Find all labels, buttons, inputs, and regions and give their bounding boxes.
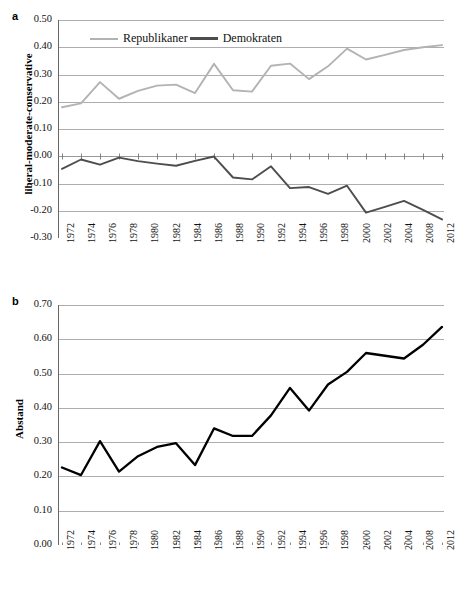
- x-tick-label: 1996: [319, 223, 329, 243]
- x-tick-label: 1976: [108, 530, 118, 550]
- x-tick-label: 1998: [340, 530, 350, 550]
- y-tick-label: 0.40: [0, 41, 52, 52]
- y-tick-label: -0.30: [0, 232, 52, 243]
- x-tick-label: 1986: [214, 530, 224, 550]
- x-tick-label: 1986: [214, 223, 224, 243]
- panel-a-svg: [58, 20, 444, 238]
- y-tick-label: 0.20: [0, 96, 52, 107]
- x-tick-label: 2000: [362, 223, 372, 243]
- x-tick-label: 1990: [256, 530, 266, 550]
- x-tick-label: 1974: [87, 530, 97, 550]
- y-tick-label: 0.40: [0, 402, 52, 413]
- x-tick-label: 1992: [277, 530, 287, 550]
- x-tick-label: 1996: [319, 530, 329, 550]
- x-tick-label: 2002: [383, 530, 393, 550]
- x-tick-label: 1974: [87, 223, 97, 243]
- x-tick-label: 1994: [298, 223, 308, 243]
- x-tick-label: 2008: [425, 530, 435, 550]
- x-tick-label: 2012: [446, 530, 456, 550]
- x-tick-label: 2004: [404, 223, 414, 243]
- panel-b: b Abstand 0.700.600.500.400.300.200.100.…: [0, 285, 453, 592]
- x-tick-label: 1980: [150, 530, 160, 550]
- y-tick-label: 0.30: [0, 69, 52, 80]
- x-tick-label: 2012: [446, 223, 456, 243]
- x-tick-label: 1990: [256, 223, 266, 243]
- x-tick-label: 1984: [193, 530, 203, 550]
- y-tick-label: 0.10: [0, 505, 52, 516]
- y-tick-label: 0.50: [0, 368, 52, 379]
- x-tick-label: 1980: [150, 223, 160, 243]
- x-tick-label: 1972: [66, 530, 76, 550]
- x-tick-label: 1978: [129, 530, 139, 550]
- y-tick-label: -0.20: [0, 205, 52, 216]
- y-tick-label: -0.10: [0, 178, 52, 189]
- panel-a: a liberal-moderate-conservative Republik…: [0, 0, 453, 292]
- x-tick-label: 2000: [362, 530, 372, 550]
- x-tick-label: 2004: [404, 530, 414, 550]
- x-tick-label: 1988: [235, 530, 245, 550]
- panel-a-plot-area: [58, 20, 444, 238]
- x-tick-label: 1982: [172, 530, 182, 550]
- y-tick-label: 0.00: [0, 539, 52, 550]
- y-tick-label: 0.70: [0, 299, 52, 310]
- y-tick-label: 0.10: [0, 123, 52, 134]
- y-tick-label: 0.60: [0, 333, 52, 344]
- y-tick-label: 0.00: [0, 150, 52, 161]
- x-tick-label: 1984: [193, 223, 203, 243]
- panel-b-plot-area: [58, 305, 444, 545]
- y-tick-label: 0.20: [0, 470, 52, 481]
- x-tick-label: 1976: [108, 223, 118, 243]
- x-tick-label: 2002: [383, 223, 393, 243]
- x-tick-label: 1972: [66, 223, 76, 243]
- x-tick-label: 1988: [235, 223, 245, 243]
- x-tick-label: 1994: [298, 530, 308, 550]
- x-tick-label: 1982: [172, 223, 182, 243]
- x-tick-label: 1992: [277, 223, 287, 243]
- x-tick-label: 1998: [340, 223, 350, 243]
- panel-b-svg: [58, 305, 444, 545]
- x-tick-label: 2008: [425, 223, 435, 243]
- x-tick-label: 1978: [129, 223, 139, 243]
- y-tick-label: 0.30: [0, 436, 52, 447]
- y-tick-label: 0.50: [0, 14, 52, 25]
